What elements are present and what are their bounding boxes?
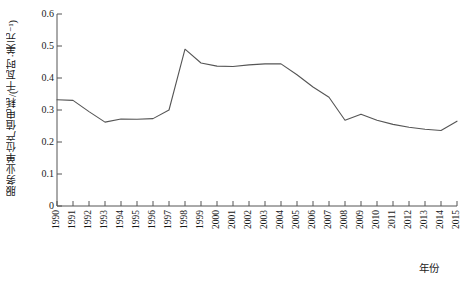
x-axis-ticks bbox=[57, 201, 457, 206]
y-tick-label: 0.4 bbox=[26, 73, 54, 83]
y-tick-label: 0.1 bbox=[26, 169, 54, 179]
y-axis-ticks bbox=[57, 14, 62, 206]
y-tick-label: 0.5 bbox=[26, 41, 54, 51]
x-tick-label: 2004 bbox=[276, 210, 286, 229]
x-tick-label: 1993 bbox=[100, 210, 110, 229]
x-tick-label: 2000 bbox=[212, 210, 222, 229]
x-tick-label: 2007 bbox=[324, 210, 334, 229]
x-tick-label: 1998 bbox=[180, 210, 190, 229]
x-tick-label: 2006 bbox=[308, 210, 318, 229]
x-tick-label: 1994 bbox=[116, 210, 126, 229]
y-tick-label: 0.2 bbox=[26, 137, 54, 147]
data-series-line bbox=[57, 49, 457, 130]
x-tick-label: 1996 bbox=[148, 210, 158, 229]
y-tick-label: 0.3 bbox=[26, 105, 54, 115]
y-tick-label-group: 00.10.20.30.40.50.6 bbox=[22, 0, 54, 281]
x-tick-label: 2009 bbox=[356, 210, 366, 229]
x-tick-label: 1995 bbox=[132, 210, 142, 229]
x-tick-label: 2010 bbox=[372, 210, 382, 229]
plot-area bbox=[0, 0, 475, 281]
x-tick-label: 1990 bbox=[52, 210, 62, 229]
x-tick-label: 2003 bbox=[260, 210, 270, 229]
x-tick-label: 1992 bbox=[84, 210, 94, 229]
x-tick-label: 2014 bbox=[436, 210, 446, 229]
x-tick-label: 2013 bbox=[420, 210, 430, 229]
x-tick-label: 1999 bbox=[196, 210, 206, 229]
x-tick-label: 1991 bbox=[68, 210, 78, 229]
x-tick-label: 2012 bbox=[404, 210, 414, 229]
x-tick-label: 2005 bbox=[292, 210, 302, 229]
chart-figure: 服务业单位产值电耗/(千瓦时·美元⁻¹) 00.10.20.30.40.50.6… bbox=[0, 0, 475, 281]
x-tick-label: 2011 bbox=[388, 210, 398, 229]
x-axis-label: 年份 bbox=[419, 264, 439, 275]
x-tick-label: 2008 bbox=[340, 210, 350, 229]
y-axis-label: 服务业单位产值电耗/(千瓦时·美元⁻¹) bbox=[2, 0, 24, 215]
x-tick-label: 2001 bbox=[228, 210, 238, 229]
y-tick-label: 0 bbox=[26, 201, 54, 211]
x-tick-label: 2002 bbox=[244, 210, 254, 229]
y-tick-label: 0.6 bbox=[26, 9, 54, 19]
x-tick-label: 1997 bbox=[164, 210, 174, 229]
x-tick-label: 2015 bbox=[452, 210, 462, 229]
axis-lines bbox=[57, 14, 457, 206]
